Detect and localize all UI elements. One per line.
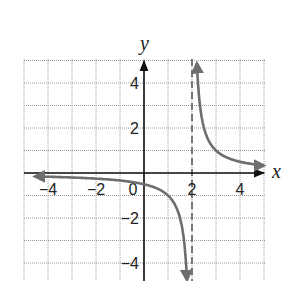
x-axis-label: x	[271, 160, 281, 182]
x-tick-label: 2	[188, 181, 197, 198]
curve-left-branch	[35, 176, 187, 280]
function-curves	[35, 63, 264, 280]
x-tick-label: −2	[87, 181, 105, 198]
rational-function-graph: −4−2024−4−224 y x	[0, 0, 296, 281]
y-tick-label: −4	[121, 255, 139, 272]
y-tick-label: −2	[121, 210, 139, 227]
y-axis-label: y	[138, 32, 149, 55]
y-tick-label: 4	[130, 75, 139, 92]
axes	[24, 61, 264, 281]
y-tick-label: 2	[130, 120, 139, 137]
grid-lines	[24, 59, 266, 281]
x-tick-label: 4	[236, 181, 245, 198]
x-tick-label: −4	[39, 181, 57, 198]
